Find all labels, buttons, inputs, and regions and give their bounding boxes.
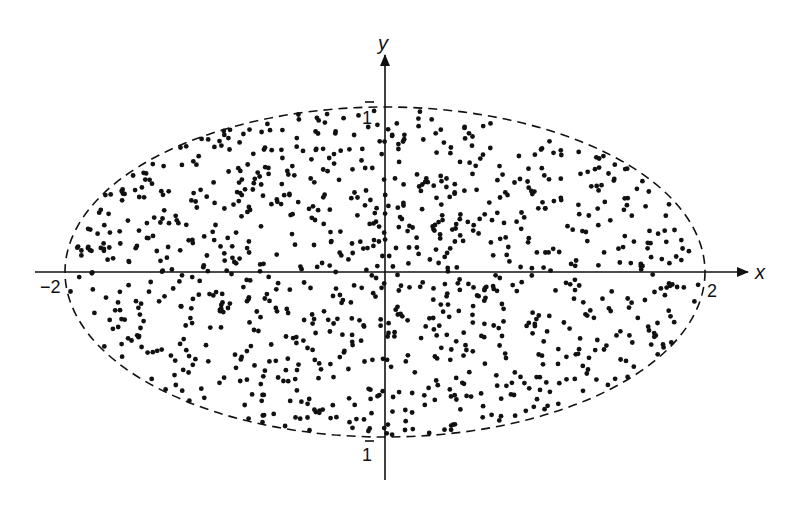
data-point	[211, 180, 216, 185]
data-point	[458, 233, 463, 238]
data-point	[487, 200, 492, 205]
data-point	[295, 368, 300, 373]
data-point	[497, 343, 502, 348]
data-point	[169, 353, 174, 358]
data-point	[171, 286, 176, 291]
data-point	[396, 225, 401, 230]
data-point	[534, 317, 539, 322]
data-point	[204, 194, 209, 199]
data-point	[393, 176, 398, 181]
data-point	[519, 280, 524, 285]
data-point	[398, 312, 403, 317]
data-point	[541, 339, 546, 344]
data-point	[305, 415, 310, 420]
data-point	[489, 412, 494, 417]
data-point	[630, 340, 635, 345]
data-point	[616, 246, 621, 251]
data-point	[321, 222, 326, 227]
data-point	[519, 210, 524, 215]
data-point	[539, 147, 544, 152]
data-point	[166, 189, 171, 194]
data-point	[362, 359, 367, 364]
data-point	[452, 190, 457, 195]
data-point	[356, 113, 361, 118]
data-point	[340, 332, 345, 337]
data-point	[585, 313, 590, 318]
data-point	[302, 318, 307, 323]
data-point	[439, 345, 444, 350]
data-point	[449, 145, 454, 150]
data-point	[241, 285, 246, 290]
data-point	[108, 230, 113, 235]
data-point	[352, 403, 357, 408]
data-point	[131, 173, 136, 178]
data-point	[378, 317, 383, 322]
data-point	[489, 240, 494, 245]
data-point	[116, 325, 121, 330]
data-point	[458, 212, 463, 217]
data-point	[531, 404, 536, 409]
data-point	[434, 195, 439, 200]
data-point	[188, 316, 193, 321]
data-point	[596, 223, 601, 228]
data-point	[249, 344, 254, 349]
data-point	[445, 291, 450, 296]
data-point	[338, 148, 343, 153]
data-point	[454, 376, 459, 381]
data-point	[330, 403, 335, 408]
data-point	[375, 122, 380, 127]
data-point	[592, 315, 597, 320]
data-point	[564, 377, 569, 382]
data-point	[609, 289, 614, 294]
data-point	[102, 247, 107, 252]
data-point	[111, 326, 116, 331]
data-point	[390, 409, 395, 414]
data-point	[172, 373, 177, 378]
data-point	[285, 356, 290, 361]
data-point	[427, 316, 432, 321]
data-point	[625, 196, 630, 201]
data-point	[184, 144, 189, 149]
data-point	[322, 309, 327, 314]
data-point	[638, 262, 643, 267]
data-point	[532, 322, 537, 327]
data-point	[415, 172, 420, 177]
data-point	[540, 200, 545, 205]
data-point	[92, 311, 97, 316]
data-point	[273, 358, 278, 363]
data-point	[463, 343, 468, 348]
data-point	[386, 321, 391, 326]
data-point	[252, 363, 257, 368]
data-point	[424, 176, 429, 181]
data-point	[597, 165, 602, 170]
data-point	[102, 223, 107, 228]
data-point	[503, 190, 508, 195]
data-point	[197, 279, 202, 284]
data-point	[142, 195, 147, 200]
data-point	[396, 147, 401, 152]
data-point	[602, 200, 607, 205]
data-point	[247, 320, 252, 325]
data-point	[106, 211, 111, 216]
data-point	[448, 151, 453, 156]
data-point	[518, 177, 523, 182]
data-point	[263, 165, 268, 170]
data-point	[454, 222, 459, 227]
data-point	[367, 426, 372, 431]
data-point	[519, 226, 524, 231]
data-point	[681, 285, 686, 290]
data-point	[586, 213, 591, 218]
data-point	[601, 154, 606, 159]
data-point	[581, 300, 586, 305]
data-point	[274, 287, 279, 292]
data-point	[514, 219, 519, 224]
data-point	[190, 362, 195, 367]
data-point	[482, 321, 487, 326]
data-point	[552, 199, 557, 204]
ellipse-scatter-chart: x y −2 2 1 1	[0, 0, 797, 516]
data-point	[267, 359, 272, 364]
data-point	[599, 183, 604, 188]
data-point	[395, 273, 400, 278]
data-point	[434, 150, 439, 155]
data-point	[236, 199, 241, 204]
